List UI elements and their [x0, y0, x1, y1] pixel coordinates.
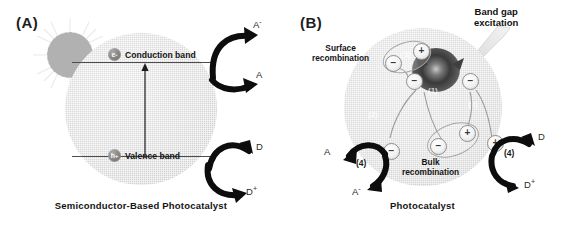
- band-gap-excitation-line1: Band gap: [474, 6, 518, 17]
- acceptor-product-sup-b: -: [358, 185, 360, 192]
- donor-product-text-b: D: [524, 179, 531, 190]
- acceptor-label-b: A: [324, 146, 330, 157]
- acceptor-product-sup: -: [259, 18, 261, 25]
- electron-charge-bulk: −: [430, 138, 447, 155]
- donor-product-label-a: D+: [246, 185, 257, 197]
- electron-transfer-arrow-a: [206, 24, 262, 88]
- panel-b-label: (B): [300, 14, 322, 31]
- band-gap-arrow-icon: [138, 62, 152, 158]
- conduction-band-row: e- Conduction band: [108, 48, 196, 61]
- bulk-recombination-label: Bulk recombination: [402, 158, 459, 177]
- acceptor-product-label-b: A-: [352, 185, 361, 197]
- donor-product-sup-b: +: [531, 178, 535, 185]
- donor-product-label-b: D+: [524, 178, 535, 190]
- step-marker-right-transfer: (4): [504, 148, 514, 158]
- acceptor-product-label-a: A-: [253, 18, 262, 30]
- electron-charge-surface: −: [385, 55, 402, 72]
- hole-carrier-icon: h+: [108, 149, 121, 162]
- panel-a-caption: Semiconductor-Based Photocatalyst: [0, 200, 282, 211]
- surface-recombination-label: Surface recombination: [312, 44, 369, 63]
- hole-charge-bulk: +: [459, 125, 476, 142]
- panel-b-caption: Photocatalyst: [282, 200, 563, 211]
- panel-b: (B) Band gap excitation (3) (1) (2) (2) …: [282, 0, 563, 227]
- valence-band-label: Valence band: [125, 151, 180, 161]
- electron-carrier-icon: e-: [108, 48, 121, 61]
- donor-label-a: D: [256, 141, 263, 152]
- electron-charge-right: −: [462, 73, 479, 90]
- conduction-band-label: Conduction band: [125, 50, 196, 60]
- acceptor-label-a: A: [256, 69, 262, 80]
- step-marker-left-transfer: (4): [356, 158, 366, 168]
- donor-product-sup: +: [253, 185, 257, 192]
- donor-product-text: D: [246, 186, 253, 197]
- donor-label-b: D: [538, 131, 545, 142]
- bulk-recombination-line2: recombination: [402, 168, 459, 178]
- electron-charge-left: −: [406, 73, 423, 90]
- hole-charge-surface: +: [413, 43, 430, 60]
- panel-a: (A): [0, 0, 282, 227]
- surface-recombination-line2: recombination: [312, 54, 369, 64]
